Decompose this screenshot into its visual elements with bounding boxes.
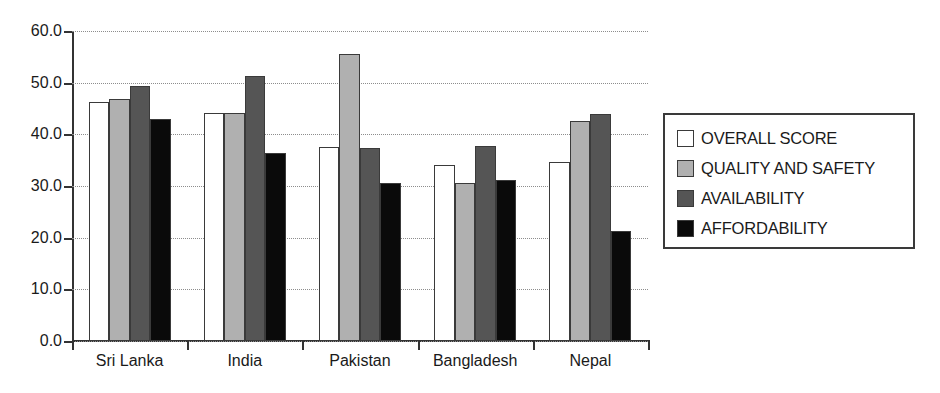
y-axis-tick-label: 50.0: [4, 75, 62, 91]
y-axis-tick-mark: [64, 289, 72, 291]
x-axis-tick-mark: [302, 341, 304, 350]
y-axis-tick-label: 20.0: [4, 230, 62, 246]
y-axis-tick-label: 10.0: [4, 281, 62, 297]
legend-item-label: AFFORDABILITY: [701, 220, 828, 237]
bar[interactable]: [455, 183, 476, 341]
legend-item[interactable]: OVERALL SCORE: [677, 123, 913, 153]
legend-item-label: OVERALL SCORE: [701, 130, 837, 147]
y-axis-tick-mark: [64, 83, 72, 85]
x-axis-tick-mark: [72, 341, 74, 350]
x-axis-tick-mark: [648, 341, 650, 350]
y-axis-tick-mark: [64, 186, 72, 188]
bar[interactable]: [434, 165, 455, 341]
y-axis-tick-label: 0.0: [4, 333, 62, 349]
bar[interactable]: [319, 147, 340, 341]
y-axis-labels: 60.050.040.030.020.010.00.0: [0, 0, 62, 393]
y-axis-tick-mark: [64, 238, 72, 240]
bar[interactable]: [496, 180, 517, 341]
y-axis-tick-mark: [64, 31, 72, 33]
x-axis-tick-mark: [418, 341, 420, 350]
bar-group: [533, 31, 648, 341]
y-axis-tick-mark: [64, 341, 72, 343]
plot-area: [72, 31, 648, 341]
bar[interactable]: [611, 231, 632, 341]
legend-item-label: QUALITY AND SAFETY: [701, 160, 875, 177]
bar[interactable]: [109, 99, 130, 341]
x-axis-category-label: Bangladesh: [418, 352, 533, 370]
legend-item[interactable]: AFFORDABILITY: [677, 213, 913, 243]
bar[interactable]: [590, 114, 611, 341]
legend-item-label: AVAILABILITY: [701, 190, 804, 207]
x-axis-tick-mark: [187, 341, 189, 350]
bar[interactable]: [549, 162, 570, 341]
bar[interactable]: [380, 183, 401, 341]
y-axis-tick-mark: [64, 134, 72, 136]
legend-swatch-icon: [677, 190, 694, 207]
legend-swatch-icon: [677, 130, 694, 147]
bar[interactable]: [150, 119, 171, 341]
bar[interactable]: [475, 146, 496, 341]
legend-item[interactable]: QUALITY AND SAFETY: [677, 153, 913, 183]
bar-group: [302, 31, 417, 341]
x-axis-category-label: Nepal: [533, 352, 648, 370]
bar[interactable]: [265, 153, 286, 341]
x-axis-tick-mark: [533, 341, 535, 350]
bar-group: [418, 31, 533, 341]
bar[interactable]: [224, 113, 245, 341]
bar[interactable]: [204, 113, 225, 341]
bar[interactable]: [339, 54, 360, 341]
legend: OVERALL SCOREQUALITY AND SAFETYAVAILABIL…: [663, 113, 915, 249]
gridline: [72, 341, 648, 342]
x-axis-category-label: India: [187, 352, 302, 370]
bar[interactable]: [245, 76, 266, 341]
y-axis-tick-label: 60.0: [4, 23, 62, 39]
bar-group: [187, 31, 302, 341]
bar[interactable]: [89, 102, 110, 341]
legend-item[interactable]: AVAILABILITY: [677, 183, 913, 213]
y-axis-tick-label: 40.0: [4, 126, 62, 142]
bar[interactable]: [570, 121, 591, 341]
legend-swatch-icon: [677, 220, 694, 237]
bar-chart: 60.050.040.030.020.010.00.0 Sri LankaInd…: [0, 0, 940, 393]
legend-swatch-icon: [677, 160, 694, 177]
x-axis-category-label: Pakistan: [302, 352, 417, 370]
bar[interactable]: [130, 86, 151, 341]
x-axis-category-label: Sri Lanka: [72, 352, 187, 370]
bar-group: [72, 31, 187, 341]
y-axis-tick-label: 30.0: [4, 178, 62, 194]
bar[interactable]: [360, 148, 381, 341]
